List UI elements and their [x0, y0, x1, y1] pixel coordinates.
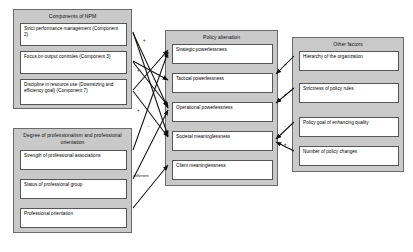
- arrow-npm2-to-tactical: [133, 61, 168, 80]
- diagram-canvas: Components of NPM Strict performance man…: [0, 0, 413, 252]
- sign-marker-9: +: [284, 142, 287, 147]
- node-professional-orientation: Professional orientation: [20, 208, 127, 228]
- group-title-policy-alienation: Policy alienation: [166, 34, 277, 41]
- node-number-of-policy-changes: Number of policy changes: [299, 146, 399, 166]
- node-tactical-powerlessness: Tactical powerlessness: [172, 73, 273, 93]
- sign-marker-5: -: [148, 124, 150, 129]
- arrow-prof1-to-strategic: [133, 52, 168, 150]
- arrow-npm1-to-operational: [133, 33, 168, 108]
- sign-marker-4: +: [137, 108, 140, 113]
- node-status-of-professional-group: Status of professional group: [20, 179, 127, 199]
- node-strength-of-professional-associations: Strength of professional associations: [20, 150, 127, 170]
- sign-marker-7: +: [284, 92, 287, 97]
- arrow-prof3-to-client: [133, 165, 168, 208]
- sign-marker-6: +: [284, 62, 287, 67]
- node-societal-meaninglessness: Societal meaninglessness: [172, 131, 273, 151]
- group-degree-of-professionalism: Degree of professionalism and profession…: [13, 128, 132, 233]
- arrow-npm2-to-operational: [133, 62, 168, 106]
- sign-marker-8: -: [284, 124, 286, 129]
- node-strategic-powerlessness: Strategic powerlessness: [172, 44, 273, 64]
- sign-marker-2: +: [137, 68, 140, 73]
- sign-marker-1: +: [143, 38, 146, 43]
- group-title-components-of-npm: Components of NPM: [14, 13, 131, 20]
- node-strictness-of-policy-rules: Strictness of policy rules: [299, 83, 399, 103]
- group-title-other-factors: Other factors: [293, 41, 403, 48]
- node-focus-on-output-controles: Focus on output controles (Component 3): [20, 51, 127, 74]
- node-strict-performance-management: Strict performance management (Component…: [20, 23, 127, 46]
- node-discipline-in-resource-use: Discipline in resource use (Downsizing a…: [20, 79, 127, 105]
- sign-marker-3: -: [137, 88, 139, 93]
- group-policy-alienation: Policy alienation Strategic powerlessnes…: [165, 30, 278, 186]
- group-components-of-npm: Components of NPM Strict performance man…: [13, 9, 132, 109]
- node-operational-powerlessness: Operational powerlessness: [172, 102, 273, 122]
- arrow-npm1-to-societal: [133, 32, 168, 136]
- edge-label-different: different: [133, 173, 149, 178]
- arrow-npm3-to-societal: [133, 91, 168, 137]
- node-hierarchy-of-the-organization: Hierarchy of the organization: [299, 51, 399, 71]
- node-policy-goal-of-enhancing-quality: Policy goal of enhancing quality: [299, 117, 399, 137]
- arrow-prof2-to-operational: [133, 110, 168, 179]
- group-other-factors: Other factors Hierarchy of the organizat…: [292, 37, 404, 172]
- node-client-meaninglessness: Client meaninglessness: [172, 160, 273, 180]
- group-title-degree-of-professionalism: Degree of professionalism and profession…: [14, 132, 131, 146]
- arrow-npm3-to-strategic: [133, 50, 168, 90]
